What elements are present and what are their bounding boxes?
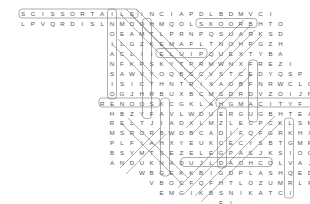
grid-letter[interactable]: D: [176, 158, 186, 168]
grid-letter[interactable]: C: [266, 118, 276, 128]
grid-letter[interactable]: K: [285, 128, 295, 138]
grid-letter[interactable]: C: [196, 69, 206, 79]
grid-letter[interactable]: R: [226, 109, 236, 119]
grid-letter[interactable]: H: [295, 128, 305, 138]
grid-letter[interactable]: L: [295, 178, 305, 188]
grid-letter[interactable]: Q: [48, 19, 58, 29]
grid-letter[interactable]: J: [256, 148, 266, 158]
grid-letter[interactable]: F: [236, 128, 246, 138]
grid-letter[interactable]: L: [285, 118, 295, 128]
grid-letter[interactable]: T: [285, 109, 295, 119]
grid-letter[interactable]: N: [226, 59, 236, 69]
grid-letter[interactable]: R: [147, 128, 157, 138]
grid-letter[interactable]: S: [246, 148, 256, 158]
grid-letter[interactable]: I: [186, 49, 196, 59]
grid-letter[interactable]: H: [275, 168, 285, 178]
grid-letter[interactable]: F: [186, 39, 196, 49]
grid-letter[interactable]: F: [206, 178, 216, 188]
grid-letter[interactable]: F: [256, 128, 266, 138]
grid-letter[interactable]: B: [186, 128, 196, 138]
grid-letter[interactable]: I: [107, 79, 117, 89]
grid-letter[interactable]: U: [206, 109, 216, 119]
grid-letter[interactable]: L: [226, 118, 236, 128]
grid-letter[interactable]: T: [226, 178, 236, 188]
grid-letter[interactable]: G: [266, 128, 276, 138]
grid-letter[interactable]: V: [256, 89, 266, 99]
grid-letter[interactable]: T: [147, 29, 157, 39]
grid-letter[interactable]: O: [266, 158, 276, 168]
grid-letter[interactable]: A: [206, 128, 216, 138]
grid-letter[interactable]: B: [176, 69, 186, 79]
grid-letter[interactable]: I: [107, 9, 117, 19]
grid-letter[interactable]: C: [246, 118, 256, 128]
grid-letter[interactable]: A: [176, 39, 186, 49]
grid-letter[interactable]: O: [275, 89, 285, 99]
grid-letter[interactable]: M: [305, 118, 310, 128]
grid-letter[interactable]: X: [236, 59, 246, 69]
grid-letter[interactable]: C: [28, 9, 38, 19]
grid-letter[interactable]: F: [295, 99, 305, 109]
grid-letter[interactable]: H: [236, 39, 246, 49]
grid-letter[interactable]: L: [275, 158, 285, 168]
grid-letter[interactable]: A: [226, 158, 236, 168]
grid-letter[interactable]: Z: [266, 39, 276, 49]
grid-letter[interactable]: E: [107, 99, 117, 109]
grid-letter[interactable]: S: [127, 9, 137, 19]
grid-letter[interactable]: Y: [176, 138, 186, 148]
grid-letter[interactable]: M: [275, 178, 285, 188]
grid-letter[interactable]: S: [48, 9, 58, 19]
grid-letter[interactable]: E: [167, 148, 177, 158]
grid-letter[interactable]: D: [176, 118, 186, 128]
grid-letter[interactable]: Q: [206, 29, 216, 39]
grid-letter[interactable]: L: [206, 158, 216, 168]
grid-letter[interactable]: J: [196, 158, 206, 168]
grid-letter[interactable]: U: [176, 49, 186, 59]
grid-letter[interactable]: G: [216, 168, 226, 178]
grid-letter[interactable]: I: [167, 9, 177, 19]
grid-letter[interactable]: K: [206, 138, 216, 148]
grid-letter[interactable]: F: [117, 59, 127, 69]
grid-letter[interactable]: A: [157, 109, 167, 119]
grid-letter[interactable]: E: [226, 138, 236, 148]
grid-letter[interactable]: Y: [266, 69, 276, 79]
grid-letter[interactable]: K: [176, 168, 186, 178]
grid-letter[interactable]: K: [206, 19, 216, 29]
grid-letter[interactable]: R: [236, 89, 246, 99]
grid-letter[interactable]: Z: [266, 89, 276, 99]
grid-letter[interactable]: Y: [167, 59, 177, 69]
grid-letter[interactable]: V: [137, 69, 147, 79]
grid-letter[interactable]: D: [226, 9, 236, 19]
grid-letter[interactable]: E: [157, 188, 167, 198]
grid-letter[interactable]: A: [206, 99, 216, 109]
grid-letter[interactable]: D: [216, 128, 226, 138]
grid-letter[interactable]: Y: [246, 138, 256, 148]
grid-letter[interactable]: S: [216, 29, 226, 39]
grid-letter[interactable]: I: [77, 19, 87, 29]
grid-letter[interactable]: W: [137, 168, 147, 178]
grid-letter[interactable]: C: [285, 79, 295, 89]
grid-letter[interactable]: L: [18, 19, 28, 29]
grid-letter[interactable]: P: [236, 168, 246, 178]
grid-letter[interactable]: L: [295, 79, 305, 89]
grid-letter[interactable]: E: [167, 168, 177, 178]
grid-letter[interactable]: E: [295, 109, 305, 119]
grid-letter[interactable]: S: [256, 138, 266, 148]
grid-letter[interactable]: B: [196, 168, 206, 178]
grid-letter[interactable]: O: [226, 19, 236, 29]
grid-letter[interactable]: Y: [137, 109, 147, 119]
grid-letter[interactable]: I: [157, 118, 167, 128]
grid-letter[interactable]: T: [206, 39, 216, 49]
grid-letter[interactable]: P: [226, 148, 236, 158]
grid-letter[interactable]: I: [196, 79, 206, 89]
grid-letter[interactable]: L: [186, 19, 196, 29]
grid-letter[interactable]: S: [196, 19, 206, 29]
grid-letter[interactable]: G: [256, 39, 266, 49]
grid-letter[interactable]: S: [216, 69, 226, 79]
grid-letter[interactable]: O: [167, 178, 177, 188]
grid-letter[interactable]: B: [117, 109, 127, 119]
grid-letter[interactable]: Q: [206, 49, 216, 59]
grid-letter[interactable]: L: [117, 39, 127, 49]
grid-letter[interactable]: O: [236, 158, 246, 168]
grid-letter[interactable]: L: [246, 168, 256, 178]
grid-letter[interactable]: Q: [167, 69, 177, 79]
